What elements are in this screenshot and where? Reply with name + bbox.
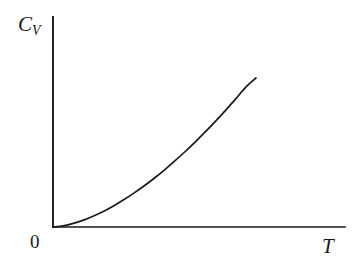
origin-label: 0 — [30, 232, 40, 251]
heat-capacity-curve — [53, 78, 256, 227]
plot-area — [0, 0, 354, 270]
y-axis-label: CV — [18, 14, 41, 38]
y-axis-label-subscript: V — [32, 23, 41, 38]
figure-canvas: CV 0 T — [0, 0, 354, 270]
y-axis-label-symbol: C — [18, 12, 32, 36]
x-axis-label: T — [322, 236, 334, 257]
